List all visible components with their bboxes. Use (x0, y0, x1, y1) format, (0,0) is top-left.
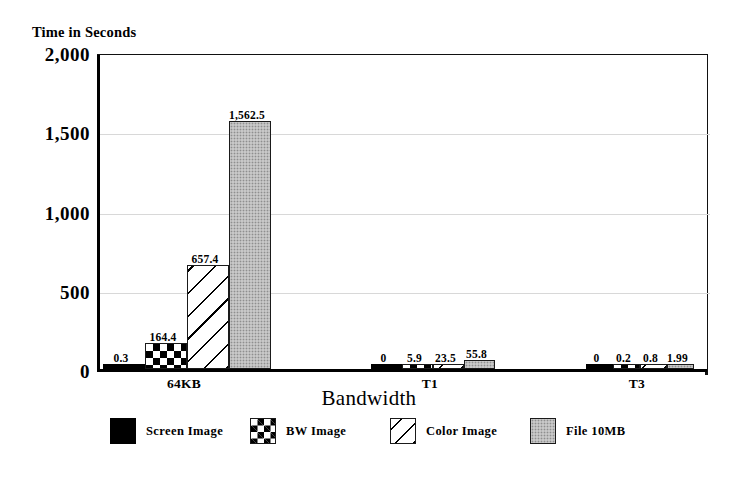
legend-swatch-icon (110, 418, 136, 444)
bar[interactable] (640, 364, 667, 369)
legend-label: BW Image (286, 424, 346, 439)
bar[interactable] (613, 364, 640, 369)
bar-value-label: 1,562.5 (229, 109, 265, 121)
bar-value-label: 23.5 (435, 352, 456, 364)
legend-label: Screen Image (146, 424, 223, 439)
bar[interactable] (433, 364, 464, 369)
bar-chart: Time in Seconds 05001,0001,5002,000 0.31… (0, 0, 738, 478)
bar-value-label: 0.3 (114, 352, 129, 364)
bar-value-label: 0.8 (643, 352, 658, 364)
bar[interactable] (667, 364, 694, 369)
bar[interactable] (586, 364, 613, 369)
x-axis-title: Bandwidth (0, 386, 738, 411)
gridline (100, 214, 710, 215)
legend-item[interactable]: File 10MB (530, 418, 670, 444)
bar[interactable] (229, 121, 271, 369)
gridline (100, 134, 710, 135)
legend-swatch-icon (250, 418, 276, 444)
legend-item[interactable]: Screen Image (110, 418, 250, 444)
bar[interactable] (464, 360, 495, 369)
chart-legend: Screen ImageBW ImageColor ImageFile 10MB (110, 418, 670, 444)
bar-value-label: 55.8 (466, 348, 487, 360)
legend-item[interactable]: BW Image (250, 418, 390, 444)
y-tick-label: 1,000 (0, 203, 90, 225)
legend-label: Color Image (426, 424, 497, 439)
y-tick-label: 1,500 (0, 123, 90, 145)
bar[interactable] (402, 364, 433, 369)
bar[interactable] (103, 364, 145, 369)
y-tick-label: 500 (0, 282, 90, 304)
legend-swatch-icon (390, 418, 416, 444)
y-tick-label: 2,000 (0, 44, 90, 66)
bar[interactable] (145, 343, 187, 369)
legend-item[interactable]: Color Image (390, 418, 530, 444)
bar[interactable] (187, 265, 229, 369)
plot-area (97, 55, 707, 372)
bar[interactable] (371, 364, 402, 369)
bar-value-label: 164.4 (150, 331, 177, 343)
bar-value-label: 0 (594, 352, 600, 364)
bar-value-label: 1.99 (667, 352, 688, 364)
legend-label: File 10MB (566, 424, 626, 439)
y-tick-label: 0 (0, 361, 90, 383)
legend-swatch-icon (530, 418, 556, 444)
bar-value-label: 0 (381, 352, 387, 364)
bar-value-label: 0.2 (616, 352, 631, 364)
bar-value-label: 5.9 (407, 352, 422, 364)
bar-value-label: 657.4 (192, 253, 219, 265)
